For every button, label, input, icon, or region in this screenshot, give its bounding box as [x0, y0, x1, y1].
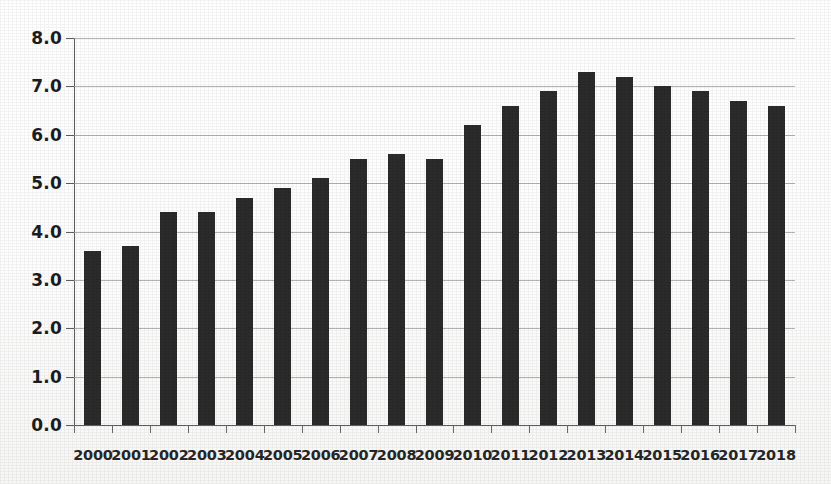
bar[interactable]: [236, 198, 253, 425]
x-axis-tick-mark: [719, 425, 720, 433]
bar[interactable]: [122, 246, 139, 425]
x-axis-tick-mark: [491, 425, 492, 433]
bar[interactable]: [160, 212, 177, 425]
x-axis-tick-mark: [416, 425, 417, 433]
y-axis-tick-label: 1.0: [6, 367, 62, 387]
x-axis-tick-mark: [302, 425, 303, 433]
x-axis-tick-mark: [681, 425, 682, 433]
y-axis-labels: 8.07.06.05.04.03.02.01.00.0: [0, 0, 62, 484]
y-axis-tick-label: 0.0: [6, 415, 62, 435]
bar[interactable]: [274, 188, 291, 425]
x-axis-tick-mark: [226, 425, 227, 433]
y-axis-tick-label: 5.0: [6, 173, 62, 193]
x-axis-tick-mark: [74, 425, 75, 433]
x-axis-tick-mark: [795, 425, 796, 433]
bar[interactable]: [84, 251, 101, 425]
bar[interactable]: [464, 125, 481, 425]
x-axis-tick-mark: [643, 425, 644, 433]
bar[interactable]: [312, 178, 329, 425]
bar[interactable]: [578, 72, 595, 425]
x-axis-baseline: [74, 425, 795, 426]
x-axis-tick-mark: [378, 425, 379, 433]
bar[interactable]: [616, 77, 633, 425]
x-axis-tick-mark: [757, 425, 758, 433]
plot-area: [74, 38, 795, 425]
x-axis-tick-mark: [605, 425, 606, 433]
y-axis-tick-label: 6.0: [6, 125, 62, 145]
bar[interactable]: [350, 159, 367, 425]
bar[interactable]: [426, 159, 443, 425]
x-axis-tick-mark: [529, 425, 530, 433]
bar[interactable]: [692, 91, 709, 425]
bar[interactable]: [540, 91, 557, 425]
bar-chart: 8.07.06.05.04.03.02.01.00.0 200020012002…: [0, 0, 831, 484]
bar[interactable]: [654, 86, 671, 425]
y-axis-tick-label: 2.0: [6, 318, 62, 338]
x-axis-tick-mark: [264, 425, 265, 433]
bar[interactable]: [502, 106, 519, 425]
y-axis-tick-label: 4.0: [6, 222, 62, 242]
x-axis-tick-mark: [453, 425, 454, 433]
y-axis-tick-label: 8.0: [6, 28, 62, 48]
bar[interactable]: [730, 101, 747, 425]
x-axis-tick-mark: [567, 425, 568, 433]
x-axis-tick-mark: [188, 425, 189, 433]
y-axis-tick-label: 7.0: [6, 76, 62, 96]
bar[interactable]: [388, 154, 405, 425]
bar[interactable]: [198, 212, 215, 425]
x-axis-tick-mark: [150, 425, 151, 433]
x-axis-tick-label: 2018: [754, 447, 798, 463]
x-axis-tick-mark: [112, 425, 113, 433]
x-axis-tick-mark: [340, 425, 341, 433]
bar[interactable]: [768, 106, 785, 425]
y-axis-tick-label: 3.0: [6, 270, 62, 290]
